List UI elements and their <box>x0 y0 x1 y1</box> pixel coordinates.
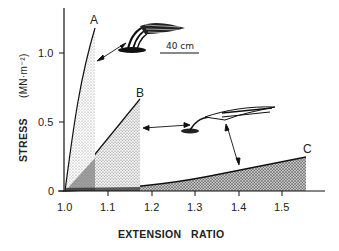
x-tick-1-0: 1.0 <box>57 201 72 213</box>
stress-extension-chart: 0 0.5 1.0 1.0 1.1 1.2 1.3 1.4 1.5 EXTENS… <box>0 0 339 251</box>
x-axis-title: EXTENSION RATIO <box>118 228 224 240</box>
curve-a-label: A <box>90 13 98 27</box>
y-axis-units: (MN·m⁻²) <box>18 53 29 98</box>
arrow-to-curve-b <box>143 123 190 131</box>
y-ticks <box>59 53 64 191</box>
y-axis-title: STRESS <box>17 118 29 162</box>
x-tick-1-4: 1.4 <box>231 201 246 213</box>
arrow-to-curve-c <box>225 124 240 165</box>
scale-bar-label: 40 cm <box>166 41 194 51</box>
x-tick-1-3: 1.3 <box>187 201 202 213</box>
x-ticks <box>108 191 282 196</box>
curve-c-label: C <box>303 142 312 156</box>
y-tick-1-0: 1.0 <box>38 47 53 59</box>
x-tick-1-2: 1.2 <box>144 201 159 213</box>
y-tick-0-5: 0.5 <box>38 116 53 128</box>
x-tick-1-5: 1.5 <box>274 201 289 213</box>
curve-b-label: B <box>136 86 144 100</box>
y-tick-0: 0 <box>48 185 54 197</box>
x-tick-1-1: 1.1 <box>100 201 115 213</box>
